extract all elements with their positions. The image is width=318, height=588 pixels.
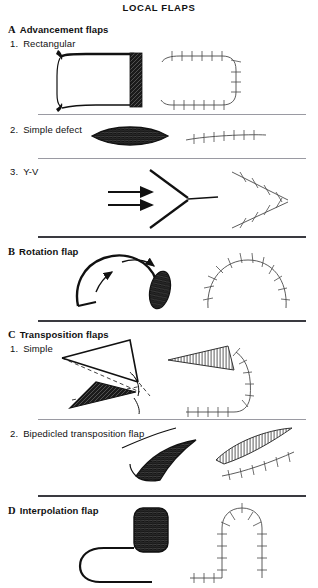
figure-c2-closure: [216, 428, 294, 480]
figure-a2-closure: [186, 130, 266, 144]
figure-d-closure: [190, 503, 267, 583]
figure-a1-closure: [161, 51, 241, 110]
figure-a2-defect: [92, 127, 168, 145]
figure-c1-flap: [62, 340, 150, 414]
figure-a3-closure: [232, 172, 288, 228]
figure-b-closure: [203, 253, 290, 308]
figure-a3-arrows: [108, 192, 152, 205]
illustration-layer: [0, 0, 318, 588]
figure-a3-y-incision: [150, 170, 218, 228]
figure-a1-flap: [56, 50, 142, 112]
figure-page: LOCAL FLAPS AAdvancement flaps 1.Rectang…: [0, 0, 318, 588]
figure-c2-flap: [122, 428, 196, 481]
figure-c1-closure: [168, 346, 254, 417]
figure-b-flap: [77, 255, 174, 310]
figure-d-flap: [80, 508, 168, 582]
